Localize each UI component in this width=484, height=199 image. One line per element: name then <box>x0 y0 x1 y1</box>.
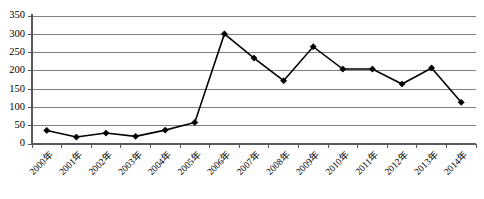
x-tick-label-2005年: 2005年 <box>175 149 203 177</box>
x-tick-label-2010年: 2010年 <box>323 149 351 177</box>
x-tick-label-2003年: 2003年 <box>116 149 144 177</box>
y-axis-tick-marks <box>28 16 32 144</box>
y-tick-label-250: 250 <box>9 46 25 57</box>
y-axis-tick-labels: 050100150200250300350 <box>9 9 25 148</box>
chart-canvas: 050100150200250300350 2000年2001年2002年200… <box>0 0 484 199</box>
x-tick-label-2013年: 2013年 <box>412 149 440 177</box>
y-tick-label-200: 200 <box>9 64 25 75</box>
data-point-2001年 <box>73 134 79 140</box>
data-point-markers <box>44 31 465 140</box>
x-tick-label-2009年: 2009年 <box>293 149 321 177</box>
x-tick-label-2007年: 2007年 <box>234 149 262 177</box>
y-tick-label-50: 50 <box>15 119 26 130</box>
y-tick-label-300: 300 <box>9 28 25 39</box>
y-tick-label-150: 150 <box>9 83 25 94</box>
y-tick-label-350: 350 <box>9 9 25 20</box>
y-tick-label-100: 100 <box>9 101 25 112</box>
x-tick-label-2000年: 2000年 <box>27 149 55 177</box>
data-point-2012年 <box>399 81 405 87</box>
x-tick-label-2008年: 2008年 <box>264 149 292 177</box>
x-axis-tick-labels: 2000年2001年2002年2003年2004年2005年2006年2007年… <box>27 149 470 177</box>
line-chart: 050100150200250300350 2000年2001年2002年200… <box>0 0 484 199</box>
data-point-2002年 <box>103 130 109 136</box>
data-point-2003年 <box>133 133 139 139</box>
y-tick-label-0: 0 <box>20 137 25 148</box>
data-point-2005年 <box>192 119 198 125</box>
x-tick-label-2012年: 2012年 <box>382 149 410 177</box>
x-tick-label-2006年: 2006年 <box>205 149 233 177</box>
series-line-path <box>47 34 461 137</box>
x-tick-label-2001年: 2001年 <box>57 149 85 177</box>
data-point-2000年 <box>44 127 50 133</box>
x-tick-label-2002年: 2002年 <box>86 149 114 177</box>
x-tick-label-2004年: 2004年 <box>145 149 173 177</box>
gridlines-group <box>32 16 476 126</box>
x-axis-tick-marks <box>32 144 476 148</box>
x-tick-label-2011年: 2011年 <box>353 149 381 177</box>
data-point-2004年 <box>162 127 168 133</box>
x-tick-label-2014年: 2014年 <box>441 149 469 177</box>
